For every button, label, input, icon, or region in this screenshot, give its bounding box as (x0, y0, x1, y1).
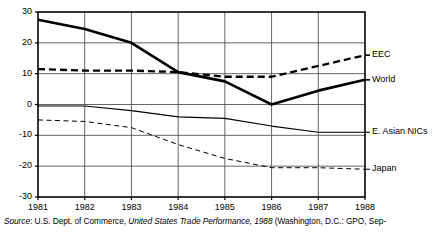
series-label-e-asian-nics: E. Asian NICs (372, 127, 428, 136)
y-axis-tick-label: 10 (0, 69, 32, 78)
x-axis-tick-label: 1984 (158, 203, 198, 212)
gridlines (38, 12, 365, 197)
x-axis-tick-label: 1981 (18, 203, 58, 212)
x-axis-tick-label: 1986 (252, 203, 292, 212)
chart-plot-area (0, 0, 434, 233)
x-axis-tick-label: 1988 (345, 203, 385, 212)
source-note-suffix: (Washington, D.C.: GPO, Sep- (273, 216, 387, 226)
source-note-title-italic: United States Trade Performance, 1988 (128, 216, 272, 226)
series-label-world: World (372, 75, 395, 84)
series-line-japan (38, 120, 365, 169)
y-axis-tick-label: 30 (0, 7, 32, 16)
y-axis-tick-label: 0 (0, 100, 32, 109)
source-note-prefix-rest: : U.S. Dept. of Commerce, (30, 216, 128, 226)
series-line-world (38, 20, 365, 105)
y-axis-tick-label: -30 (0, 192, 32, 201)
series-label-japan: Japan (372, 164, 397, 173)
x-axis-tick-label: 1985 (205, 203, 245, 212)
source-note: Source: U.S. Dept. of Commerce, United S… (4, 216, 432, 227)
trade-performance-line-chart: 3020100-10-20-30198119821983198419851986… (0, 0, 434, 233)
y-axis-tick-label: 20 (0, 38, 32, 47)
y-axis-tick-label: -10 (0, 130, 32, 139)
series-label-eec: EEC (372, 50, 391, 59)
y-axis-tick-label: -20 (0, 161, 32, 170)
series-group (38, 20, 370, 170)
source-note-prefix-italic: Source (4, 216, 30, 226)
series-line-e-asian-nics (38, 106, 365, 132)
x-axis-tick-label: 1983 (111, 203, 151, 212)
x-axis-tick-label: 1987 (298, 203, 338, 212)
x-axis-tick-label: 1982 (65, 203, 105, 212)
